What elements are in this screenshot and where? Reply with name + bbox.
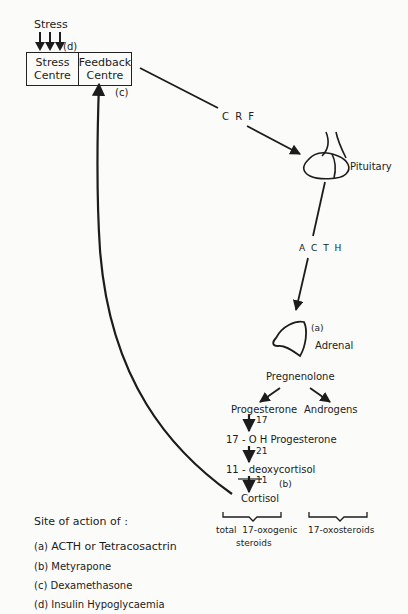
legend-item-c: (c) Dexamethasone (34, 580, 177, 591)
crf-label: C R F (222, 110, 256, 123)
legend: Site of action of : (a) ACTH or Tetracos… (34, 515, 177, 614)
pregnenolone-label: Pregnenolone (266, 370, 335, 383)
pituitary-shape (304, 132, 349, 179)
legend-label: ACTH or Tetracosactrin (51, 540, 177, 553)
stress-arrows (35, 32, 65, 51)
feedback-centre-cell: Feedback Centre (79, 53, 131, 85)
legend-label: Metyrapone (51, 561, 111, 572)
androgens-label: Androgens (304, 403, 358, 416)
deoxycortisol-label: 11 - deoxycortisol (226, 463, 315, 476)
stress-centre-line2: Centre (34, 69, 71, 82)
enzyme-step-21: 21 (256, 445, 267, 458)
legend-item-b: (b) Metyrapone (34, 561, 177, 572)
stress-label: Stress (34, 18, 68, 31)
legend-marker: (b) (34, 561, 48, 572)
adrenal-label: Adrenal (315, 339, 353, 352)
oxosteroids-label: 17-oxosteroids (308, 524, 374, 537)
stress-centre-line1: Stress (36, 56, 70, 69)
crf-arrow (140, 68, 300, 154)
acth-label: A C T H (299, 242, 343, 255)
group-brackets (223, 512, 367, 521)
legend-label: Insulin Hypoglycaemia (51, 599, 164, 610)
stress-centre-cell: Stress Centre (27, 53, 79, 85)
legend-marker: (c) (34, 580, 47, 591)
cortisol-marker-b: (b) (279, 478, 292, 491)
pregnenolone-branches (260, 388, 330, 402)
legend-marker: (a) (34, 541, 48, 552)
cortisol-label: Cortisol (241, 492, 279, 505)
oxogenic-steroids-line1: total 17-oxogenic (216, 524, 297, 537)
legend-item-d: (d) Insulin Hypoglycaemia (34, 599, 177, 610)
feedback-centre-line1: Feedback (79, 56, 131, 69)
legend-item-a: (a) ACTH or Tetracosactrin (34, 540, 177, 553)
pituitary-label: Pituitary (350, 160, 392, 173)
enzyme-step-11: 11 (256, 474, 267, 487)
adrenal-shape (273, 322, 306, 356)
legend-title: Site of action of : (34, 515, 177, 528)
feedback-arrow (97, 84, 232, 494)
oxogenic-steroids-line2: steroids (236, 537, 272, 550)
adrenal-marker-a: (a) (311, 322, 324, 335)
feedback-centre-line2: Centre (87, 69, 124, 82)
legend-marker: (d) (34, 599, 48, 610)
legend-label: Dexamethasone (51, 580, 133, 591)
centre-box: Stress Centre Feedback Centre (26, 52, 132, 86)
oh-progesterone-label: 17 - O H Progesterone (226, 433, 337, 446)
enzyme-step-17: 17 (256, 414, 267, 427)
feedback-marker-c: (c) (115, 86, 128, 99)
